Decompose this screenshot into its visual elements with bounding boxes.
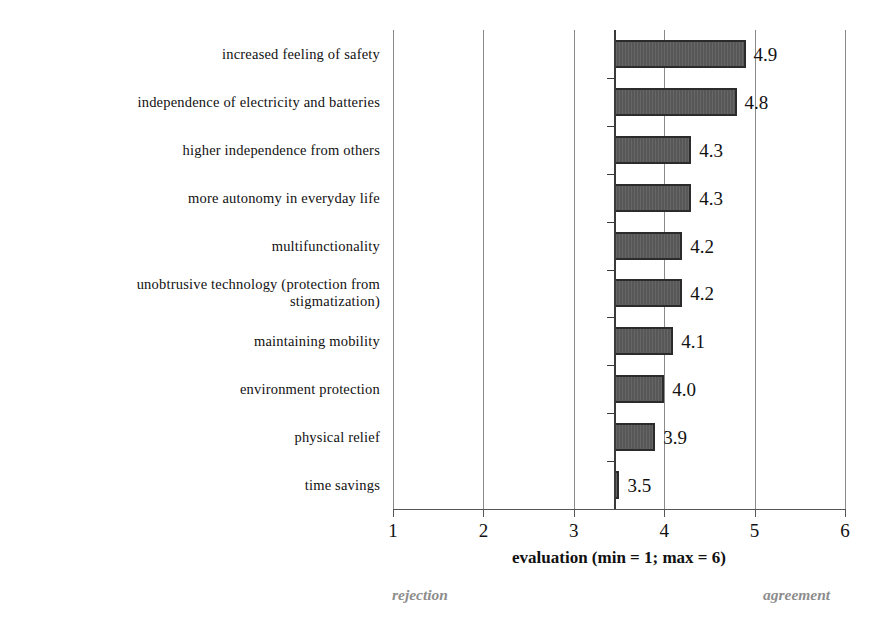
bar-value-label: 4.8 (745, 92, 769, 111)
category-label-column: increased feeling of safetyindependence … (0, 0, 388, 635)
category-label: higher independence from others (183, 141, 380, 158)
x-tick-label-5: 5 (750, 521, 760, 540)
bar-value-label: 4.2 (690, 284, 714, 303)
bar (614, 279, 682, 307)
category-label: time savings (305, 477, 380, 494)
x-tick-6 (845, 509, 846, 517)
y-tick (607, 78, 614, 79)
category-label: increased feeling of safety (222, 45, 380, 62)
x-tick-5 (755, 509, 756, 517)
category-label: maintaining mobility (254, 333, 380, 350)
x-tick-4 (664, 509, 665, 517)
annotation-agreement: agreement (763, 586, 830, 604)
y-tick (607, 365, 614, 366)
bar (614, 136, 691, 164)
bar (614, 88, 736, 116)
y-tick (607, 174, 614, 175)
y-axis-line (614, 30, 616, 509)
x-tick-label-1: 1 (388, 521, 398, 540)
y-tick (607, 222, 614, 223)
bar-value-label: 4.0 (672, 380, 696, 399)
bar (614, 40, 745, 68)
y-tick (607, 270, 614, 271)
x-tick-2 (483, 509, 484, 517)
horizontal-bar-chart: increased feeling of safetyindependence … (0, 0, 882, 635)
bar-value-label: 3.9 (663, 428, 687, 447)
bar-value-label: 4.2 (690, 236, 714, 255)
bar-value-label: 4.9 (754, 44, 778, 63)
category-label: multifunctionality (272, 237, 380, 254)
bar (614, 232, 682, 260)
x-axis-line (393, 509, 845, 510)
category-label: more autonomy in everyday life (188, 189, 380, 206)
category-label: unobtrusive technology (protection from … (137, 276, 380, 310)
x-tick-1 (393, 509, 394, 517)
category-label: physical relief (294, 429, 380, 446)
x-tick-label-4: 4 (659, 521, 669, 540)
annotation-rejection: rejection (392, 586, 448, 604)
bar (614, 327, 673, 355)
y-tick (607, 317, 614, 318)
x-tick-label-3: 3 (569, 521, 579, 540)
x-tick-label-2: 2 (479, 521, 489, 540)
gridline-2 (483, 30, 484, 509)
bar (614, 375, 664, 403)
y-tick (607, 126, 614, 127)
category-label: environment protection (240, 381, 380, 398)
bar-value-label: 3.5 (627, 476, 651, 495)
x-tick-label-6: 6 (840, 521, 850, 540)
plot-area (393, 30, 845, 509)
bar (614, 423, 655, 451)
category-label: independence of electricity and batterie… (137, 93, 380, 110)
x-axis-title: evaluation (min = 1; max = 6) (393, 548, 845, 568)
y-tick (607, 413, 614, 414)
y-tick (607, 461, 614, 462)
bar-value-label: 4.3 (699, 140, 723, 159)
gridline-3 (574, 30, 575, 509)
bar-value-label: 4.1 (681, 332, 705, 351)
bar-value-label: 4.3 (699, 188, 723, 207)
gridline-6 (845, 30, 846, 509)
gridline-1 (393, 30, 394, 509)
bar (614, 184, 691, 212)
x-tick-3 (574, 509, 575, 517)
